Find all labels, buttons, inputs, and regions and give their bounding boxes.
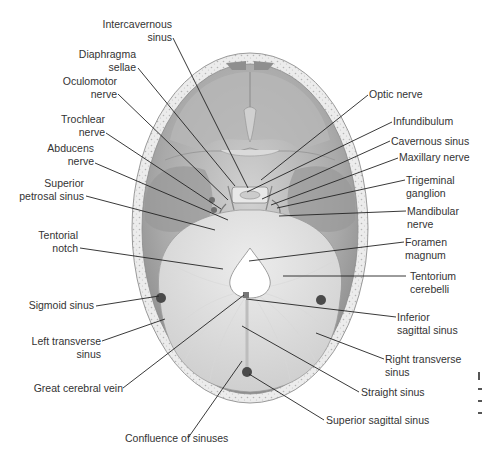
label-line: sagittal sinus <box>397 324 458 337</box>
cropped-text-fragment <box>478 412 482 414</box>
label-sigmoid-sinus: Sigmoid sinus <box>29 299 94 312</box>
label-line: sinus <box>103 31 172 44</box>
label-line: ganglion <box>406 187 455 200</box>
label-line: Right transverse <box>385 353 461 366</box>
label-line: Maxillary nerve <box>399 151 470 164</box>
tentorium-cerebelli-shape <box>158 210 341 392</box>
label-intercavernous-sinus: Intercavernous sinus <box>103 18 172 43</box>
label-line: Diaphragma <box>79 48 136 61</box>
label-line: Tentorium <box>410 270 456 283</box>
label-line: Trigeminal <box>406 174 455 187</box>
label-confluence-of-sinuses: Confluence of sinuses <box>125 432 228 445</box>
label-left-transverse-sinus: Left transverse sinus <box>32 335 101 360</box>
label-line: Straight sinus <box>361 386 425 399</box>
label-right-transverse-sinus: Right transverse sinus <box>385 353 461 378</box>
label-straight-sinus: Straight sinus <box>361 386 425 399</box>
label-line: Trochlear <box>61 113 105 126</box>
label-diaphragma-sellae: Diaphragma sellae <box>79 48 136 73</box>
label-line: magnum <box>405 249 447 262</box>
label-line: Confluence of sinuses <box>125 432 228 445</box>
label-line: Inferior <box>397 311 458 324</box>
label-trochlear-nerve: Trochlear nerve <box>61 113 105 138</box>
cranial-cavity-figure: Intercavernous sinus Diaphragma sellae O… <box>0 0 483 459</box>
label-line: Tentorial <box>38 229 78 242</box>
label-line: cerebelli <box>410 283 456 296</box>
cropped-text-fragment <box>478 388 482 390</box>
label-line: Cavernous sinus <box>391 135 469 148</box>
label-line: Foramen <box>405 236 447 249</box>
label-superior-petrosal-sinus: Superior petrosal sinus <box>19 177 84 202</box>
label-line: Great cerebral vein <box>34 382 123 395</box>
label-infundibulum: Infundibulum <box>393 115 453 128</box>
label-line: sinus <box>385 366 461 379</box>
label-trigeminal-ganglion: Trigeminal ganglion <box>406 174 455 199</box>
cropped-text-fragment <box>478 400 482 402</box>
label-line: sellae <box>79 61 136 74</box>
label-line: Superior <box>19 177 84 190</box>
label-great-cerebral-vein: Great cerebral vein <box>34 382 123 395</box>
label-cavernous-sinus: Cavernous sinus <box>391 135 469 148</box>
label-line: Sigmoid sinus <box>29 299 94 312</box>
label-superior-sagittal-sinus: Superior sagittal sinus <box>326 414 429 427</box>
label-line: Infundibulum <box>393 115 453 128</box>
label-line: petrosal sinus <box>19 190 84 203</box>
label-tentorium-cerebelli: Tentorium cerebelli <box>410 270 456 295</box>
label-line: Mandibular <box>407 205 459 218</box>
label-line: nerve <box>47 155 94 168</box>
label-line: Abducens <box>47 142 94 155</box>
label-line: Intercavernous <box>103 18 172 31</box>
label-line: Superior sagittal sinus <box>326 414 429 427</box>
label-tentorial-notch: Tentorial notch <box>38 229 78 254</box>
label-line: nerve <box>407 218 459 231</box>
label-line: Oculomotor <box>63 75 117 88</box>
label-line: Left transverse <box>32 335 101 348</box>
label-mandibular-nerve: Mandibular nerve <box>407 205 459 230</box>
label-line: notch <box>38 242 78 255</box>
label-line: nerve <box>63 88 117 101</box>
label-inferior-sagittal-sinus: Inferior sagittal sinus <box>397 311 458 336</box>
label-maxillary-nerve: Maxillary nerve <box>399 151 470 164</box>
label-line: Optic nerve <box>369 88 423 101</box>
label-foramen-magnum: Foramen magnum <box>405 236 447 261</box>
cropped-text-fragment <box>478 372 480 380</box>
label-optic-nerve: Optic nerve <box>369 88 423 101</box>
label-line: nerve <box>61 126 105 139</box>
label-oculomotor-nerve: Oculomotor nerve <box>63 75 117 100</box>
label-line: sinus <box>32 348 101 361</box>
label-abducens-nerve: Abducens nerve <box>47 142 94 167</box>
